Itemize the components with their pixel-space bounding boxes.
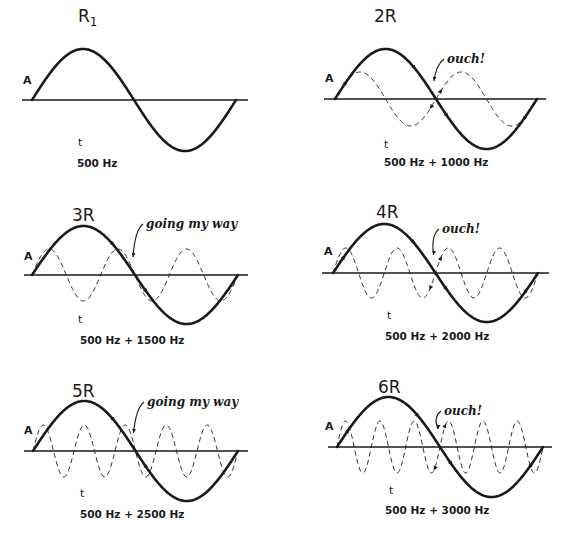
direction-arrows	[345, 413, 533, 471]
time-label: t	[78, 313, 83, 326]
diagram-canvas: R1At500 Hz2RAt500 Hz + 1000 Hzouch!3RAt5…	[0, 0, 574, 535]
direction-arrows	[343, 65, 527, 120]
panel-r3: 3RAt500 Hz + 1500 Hzgoing my way	[24, 205, 248, 346]
pointer-arrow	[134, 402, 145, 433]
panel-r1: R1At500 Hz	[22, 6, 248, 169]
pointer-arrow	[133, 224, 143, 257]
panel-r6: 6RAt500 Hz + 3000 Hzouch!	[325, 377, 552, 516]
amplitude-label: A	[23, 74, 32, 87]
panel-title: 3R	[72, 205, 95, 225]
frequency-label: 500 Hz + 3000 Hz	[385, 504, 489, 516]
frequency-label: 500 Hz + 2000 Hz	[385, 330, 489, 342]
amplitude-label: A	[24, 424, 33, 437]
panel-r2: 2RAt500 Hz + 1000 Hzouch!	[324, 6, 546, 168]
annotation-opposing: ouch!	[444, 404, 482, 418]
panel-title: 4R	[376, 202, 399, 222]
direction-arrows	[341, 239, 528, 293]
frequency-label: 500 Hz	[77, 157, 117, 169]
annotation-opposing: ouch!	[447, 52, 485, 66]
frequency-label: 500 Hz + 1500 Hz	[80, 334, 184, 346]
time-label: t	[389, 484, 394, 497]
amplitude-label: A	[24, 250, 33, 263]
amplitude-label: A	[325, 420, 334, 433]
annotation-aligned: going my way	[147, 395, 239, 409]
amplitude-label: A	[325, 72, 334, 85]
time-label: t	[78, 136, 83, 149]
time-label: t	[80, 487, 85, 500]
panel-r5: 5RAt500 Hz + 2500 Hzgoing my way	[24, 381, 248, 520]
harmonics-diagram: R1At500 Hz2RAt500 Hz + 1000 Hzouch!3RAt5…	[0, 0, 574, 535]
frequency-label: 500 Hz + 1000 Hz	[384, 156, 488, 168]
amplitude-label: A	[324, 245, 333, 258]
title-subscript: 1	[90, 15, 98, 29]
frequency-label: 500 Hz + 2500 Hz	[80, 508, 184, 520]
panel-r4: 4RAt500 Hz + 2000 Hzouch!	[322, 202, 549, 342]
panel-title: 5R	[72, 381, 95, 401]
panel-title: R1	[78, 6, 97, 29]
time-label: t	[384, 138, 389, 151]
annotation-opposing: ouch!	[442, 222, 480, 236]
time-label: t	[387, 309, 392, 322]
annotation-aligned: going my way	[146, 217, 238, 231]
panel-title: 2R	[374, 6, 397, 26]
panel-title: 6R	[378, 377, 401, 397]
